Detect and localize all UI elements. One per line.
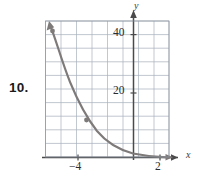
x-tick-label-2: 2: [155, 161, 161, 173]
graph-plot: [0, 0, 199, 181]
y-axis-label: y: [134, 1, 138, 11]
y-tick-label-40: 40: [113, 27, 125, 39]
x-axis-label: x: [186, 150, 190, 160]
grid-lines: [46, 21, 170, 157]
x-tick-label-negative-4: −4: [69, 161, 81, 173]
y-axis: [130, 10, 137, 160]
y-tick-label-20: 20: [113, 85, 125, 97]
exercise-figure: 10.: [0, 0, 199, 181]
